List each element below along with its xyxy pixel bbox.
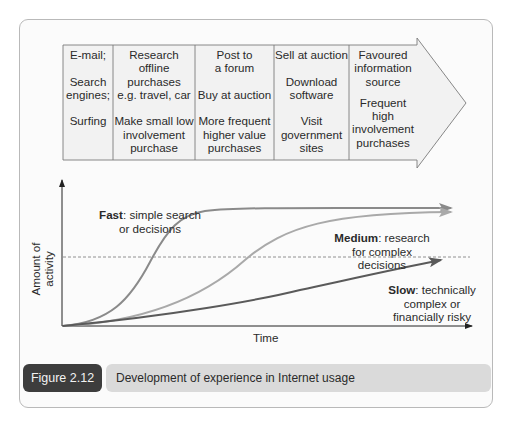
slow-label-desc: complex or bbox=[382, 297, 482, 311]
stage-text: E-mail; bbox=[63, 48, 113, 61]
medium-label-desc: for complex bbox=[330, 245, 434, 259]
stage-text: Post to bbox=[195, 48, 274, 61]
stage-text: Download bbox=[274, 75, 349, 88]
stage-text: software bbox=[274, 88, 349, 101]
fast-label-name: Fast bbox=[99, 208, 123, 221]
stage-text: higher value bbox=[195, 128, 274, 141]
stage-text: sites bbox=[274, 141, 349, 154]
stage-text: government bbox=[274, 128, 349, 141]
figure-number-badge: Figure 2.12 bbox=[23, 364, 102, 392]
stage-text: engines; bbox=[63, 88, 113, 101]
stage-text: Frequent bbox=[349, 96, 417, 109]
slow-label-name: Slow bbox=[388, 283, 415, 296]
stage-text: Surfing bbox=[63, 114, 113, 127]
slow-curve-label: Slow: technically complex or financially… bbox=[382, 283, 482, 324]
slow-label-desc: : technically bbox=[415, 283, 476, 296]
stage-text: Make small low bbox=[113, 114, 195, 127]
stage-text: purchase bbox=[113, 141, 195, 154]
stage-text: purchases bbox=[349, 136, 417, 149]
stage-text: Favoured bbox=[349, 48, 417, 61]
stage-text: Visit bbox=[274, 114, 349, 127]
stage-column-2: Research offline purchases e.g. travel, … bbox=[113, 48, 195, 158]
stage-column-4: Sell at auction Download software Visit … bbox=[274, 48, 349, 158]
stage-column-5: Favoured information source Frequent hig… bbox=[349, 48, 417, 158]
slow-label-desc: financially risky bbox=[382, 310, 482, 324]
fast-label-desc: : simple search bbox=[123, 208, 201, 221]
stage-column-3: Post to a forum Buy at auction More freq… bbox=[195, 48, 274, 158]
stage-text: Buy at auction bbox=[195, 88, 274, 101]
stage-text: purchases bbox=[113, 75, 195, 88]
stage-text: high bbox=[349, 109, 417, 122]
stage-text: involvement bbox=[113, 128, 195, 141]
fast-curve-label: Fast: simple search or decisions bbox=[95, 208, 205, 235]
stage-text: source bbox=[349, 75, 417, 88]
stage-text: Research bbox=[113, 48, 195, 61]
stage-text: Sell at auction bbox=[274, 48, 349, 61]
fast-label-desc: or decisions bbox=[95, 222, 205, 236]
medium-label-desc: decisions bbox=[330, 258, 434, 272]
x-axis-label: Time bbox=[253, 331, 278, 344]
stage-text: involvement bbox=[349, 122, 417, 135]
y-axis-label: Amount of activity bbox=[29, 224, 55, 314]
medium-curve-label: Medium: research for complex decisions bbox=[330, 231, 434, 272]
medium-label-desc: : research bbox=[378, 231, 430, 244]
stage-text: Search bbox=[63, 75, 113, 88]
figure-caption: Development of experience in Internet us… bbox=[106, 364, 491, 392]
stage-text: information bbox=[349, 61, 417, 74]
stage-text: More frequent bbox=[195, 114, 274, 127]
stage-column-1: E-mail; Search engines; Surfing bbox=[63, 48, 113, 158]
stage-text: purchases bbox=[195, 141, 274, 154]
stage-text: e.g. travel, car bbox=[113, 88, 195, 101]
stage-text: offline bbox=[113, 61, 195, 74]
medium-label-name: Medium bbox=[334, 231, 378, 244]
stage-text: a forum bbox=[195, 61, 274, 74]
